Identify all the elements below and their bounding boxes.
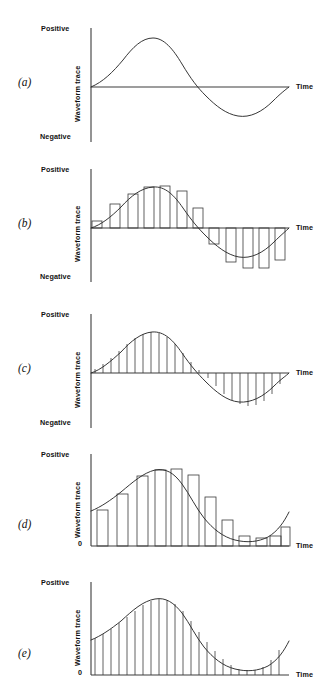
plot-d xyxy=(0,440,332,570)
plot-c xyxy=(0,290,332,440)
plot-b xyxy=(0,150,332,290)
panel-e: (e) Positive 0 Waveform trace Time xyxy=(0,570,332,698)
waveform-curve-e xyxy=(91,599,289,671)
plot-a xyxy=(0,0,332,150)
figure-root: (a) Positive Negative Waveform trace Tim… xyxy=(0,0,332,698)
waveform-curve-c xyxy=(91,332,289,402)
sample-bars-d xyxy=(97,469,290,546)
panel-d: (d) Positive 0 Waveform trace Time xyxy=(0,440,332,570)
waveform-curve-d xyxy=(91,470,289,542)
panel-a: (a) Positive Negative Waveform trace Tim… xyxy=(0,0,332,150)
panel-b: (b) Positive Negative Waveform trace Tim… xyxy=(0,150,332,290)
plot-e xyxy=(0,570,332,698)
sample-lines-c xyxy=(95,332,280,406)
sample-bars-b xyxy=(92,186,285,268)
sample-lines-e xyxy=(95,599,279,675)
panel-c: (c) Positive Negative Waveform trace Tim… xyxy=(0,290,332,440)
waveform-curve-a xyxy=(91,38,289,116)
